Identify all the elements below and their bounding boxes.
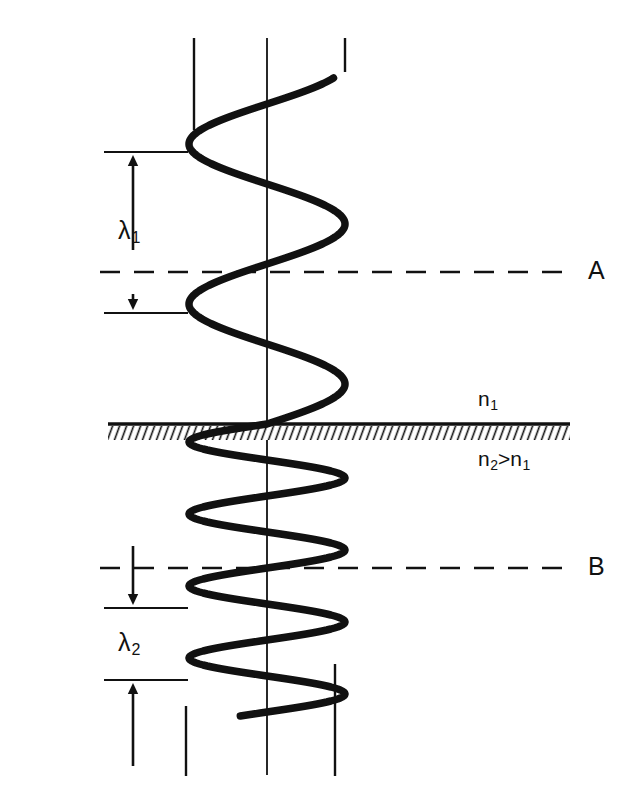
- n1-subscript: 1: [490, 397, 498, 413]
- lambda1-symbol: λ: [118, 216, 131, 244]
- wavelength-1-label: λ1: [118, 218, 140, 246]
- n2-symbol: n: [478, 447, 490, 470]
- lambda2-subscript: 2: [131, 641, 141, 658]
- n2-comparison: >n: [498, 447, 522, 470]
- wavelength-2-label: λ2: [118, 630, 140, 658]
- n2-comparison-subscript: 1: [522, 457, 530, 473]
- lambda2-arrow-down-head: [128, 594, 138, 605]
- interface-hatching: [108, 426, 570, 440]
- wave-refraction-diagram: λ1 λ2 n1 n2>n1 A B: [0, 0, 634, 808]
- lambda1-arrow-down-head: [128, 299, 138, 310]
- lambda2-symbol: λ: [118, 628, 131, 656]
- reference-lines: [100, 272, 570, 568]
- reference-line-a-label: A: [588, 258, 605, 283]
- wavelength-measure-marks: [104, 152, 188, 766]
- refractive-index-n1-label: n1: [478, 388, 498, 412]
- n1-symbol: n: [478, 387, 490, 410]
- lambda2-arrow-up-head: [128, 683, 138, 694]
- reference-line-b-label: B: [588, 554, 605, 579]
- lambda1-arrow-up-head: [128, 155, 138, 166]
- diagram-canvas: [0, 0, 634, 808]
- lambda1-subscript: 1: [131, 229, 141, 246]
- medium-interface: [108, 424, 570, 440]
- refractive-index-n2-label: n2>n1: [478, 448, 530, 472]
- n2-subscript: 2: [490, 457, 498, 473]
